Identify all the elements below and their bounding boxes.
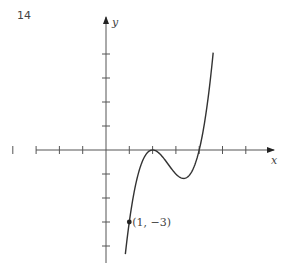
x-axis-label: x (271, 154, 278, 167)
y-axis-label: y (111, 16, 119, 29)
cubic-graph: (1, −3) x y (0, 0, 293, 276)
point-label: (1, −3) (132, 216, 171, 229)
point-marker (127, 220, 132, 225)
